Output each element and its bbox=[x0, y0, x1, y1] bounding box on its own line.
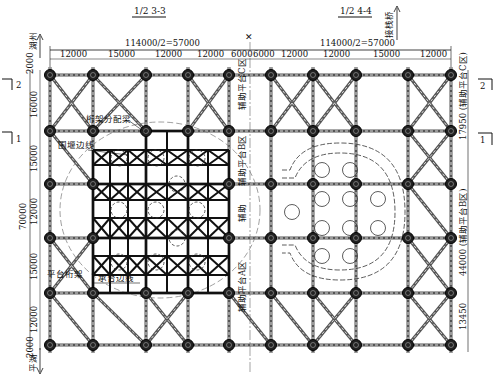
section-mark-2-left: 2 bbox=[2, 79, 21, 90]
section-mark-1-left: 1 bbox=[2, 132, 21, 144]
dim-seg: 15000 bbox=[108, 49, 135, 59]
dim-seg: 12000 bbox=[29, 306, 39, 333]
section-mark-2-right: 2 bbox=[478, 79, 492, 91]
label-aux-a: 辅助平台A区 bbox=[237, 261, 247, 312]
trestle-direction: 接栈桥 bbox=[384, 6, 400, 40]
dim-seg: 16000 bbox=[29, 91, 39, 118]
dim-right-total: 114000/2=57000 bbox=[320, 38, 395, 48]
section-title-left: 1/2 3-3 bbox=[132, 6, 166, 17]
dim-seg: 15000 bbox=[373, 49, 400, 59]
dim-seg: 12000 bbox=[281, 49, 308, 59]
dim-seg-c: 17950 (辅助平台C区) bbox=[458, 52, 468, 140]
label-cofferdam: 围堰边线 bbox=[58, 140, 94, 150]
mark-2: 2 bbox=[16, 80, 21, 90]
svg-text:✕: ✕ bbox=[245, 32, 253, 42]
drawing-canvas: 1/2 3-3 1/2 4-4 114000/2=57000 114000/2=… bbox=[0, 0, 504, 377]
section-mark-1-right: 1 bbox=[478, 133, 492, 145]
dim-seg: 12000 bbox=[155, 49, 182, 59]
dim-seg: 6000 bbox=[231, 49, 253, 59]
dim-seg-last: 13450 bbox=[458, 303, 468, 330]
dim-seg: 6000 bbox=[253, 49, 275, 59]
label-trestle: 接栈桥 bbox=[384, 11, 394, 38]
title-right: 1/2 4-4 bbox=[340, 6, 372, 16]
label-aux-b: 辅助平台B区 bbox=[237, 135, 247, 186]
dim-seg: 15000 bbox=[29, 253, 39, 280]
dim-left-total: 114000/2=57000 bbox=[125, 38, 200, 48]
title-left: 1/2 3-3 bbox=[134, 6, 166, 16]
dim-seg: 12000 bbox=[420, 49, 447, 59]
label-aux: 辅助 bbox=[237, 204, 247, 222]
dim-seg: 2000 bbox=[25, 52, 35, 74]
label-pile-cap-edge: 承台边线 bbox=[98, 273, 134, 283]
dim-seg: 12000 bbox=[323, 49, 350, 59]
left-dimensions: 2000 16000 15000 12000 70000 15000 12000… bbox=[18, 52, 40, 358]
dim-seg: 15000 bbox=[29, 145, 39, 172]
dim-seg: 2000 bbox=[25, 336, 35, 358]
dim-seg-b: 44000 (辅助平台B区) bbox=[458, 188, 468, 276]
mark-1: 1 bbox=[480, 135, 485, 145]
mark-2: 2 bbox=[480, 81, 485, 91]
label-aux-c: 辅助平台C区 bbox=[237, 58, 247, 110]
label-huzhou: 湖州 bbox=[28, 32, 38, 50]
dim-seg: 12000 bbox=[29, 198, 39, 225]
top-dimensions: 114000/2=57000 114000/2=57000 12000 1500… bbox=[50, 38, 451, 70]
dim-seg: 12000 bbox=[60, 49, 87, 59]
mark-1: 1 bbox=[16, 134, 21, 144]
dim-total: 70000 bbox=[18, 203, 28, 230]
dim-seg: 12000 bbox=[197, 49, 224, 59]
piles bbox=[111, 150, 386, 270]
label-truss-beam: 桁架分配梁 bbox=[86, 114, 131, 124]
right-dimensions: 17950 (辅助平台C区) 44000 (辅助平台B区) 13450 bbox=[458, 52, 468, 352]
section-title-right: 1/2 4-4 bbox=[338, 6, 372, 17]
label-platform-truss: 平台桁架 bbox=[47, 269, 83, 279]
